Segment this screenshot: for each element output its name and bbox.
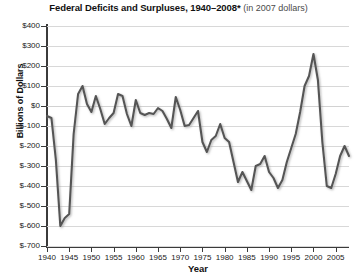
- y-axis-tick: [41, 106, 46, 107]
- y-axis-tick-label: $-200: [0, 141, 40, 150]
- x-axis-tick: [313, 248, 314, 252]
- x-axis-tick: [91, 248, 92, 252]
- y-axis-tick-label: $-700: [0, 241, 40, 250]
- y-axis-tick: [41, 206, 46, 207]
- x-axis-tick: [225, 248, 226, 252]
- x-axis-tick: [69, 248, 70, 252]
- x-axis-tick: [136, 248, 137, 252]
- y-axis-tick-label: $-100: [0, 121, 40, 130]
- y-axis-tick: [41, 126, 46, 127]
- chart-title: Federal Deficits and Surpluses, 1940–200…: [0, 2, 357, 14]
- y-axis-tick-label: $200: [0, 61, 40, 70]
- y-axis-tick: [41, 26, 46, 27]
- y-axis-tick-label: $300: [0, 41, 40, 50]
- y-axis-tick: [41, 226, 46, 227]
- y-axis-tick: [41, 66, 46, 67]
- x-axis-tick: [180, 248, 181, 252]
- x-axis-tick: [202, 248, 203, 252]
- x-axis-tick-label: 2005: [321, 253, 351, 262]
- y-axis-tick-label: $-300: [0, 161, 40, 170]
- plot-area: [47, 26, 349, 246]
- y-axis-tick: [41, 146, 46, 147]
- deficit-surplus-line-series: [47, 26, 349, 246]
- x-axis-tick: [336, 248, 337, 252]
- y-axis-tick-label: $100: [0, 81, 40, 90]
- x-axis-title: Year: [47, 263, 349, 274]
- x-axis-tick: [247, 248, 248, 252]
- y-axis-tick: [41, 46, 46, 47]
- y-axis-tick: [41, 86, 46, 87]
- y-axis-tick: [41, 186, 46, 187]
- y-axis-tick: [41, 166, 46, 167]
- x-axis-tick: [158, 248, 159, 252]
- chart-container: Federal Deficits and Surpluses, 1940–200…: [0, 0, 357, 280]
- y-axis-tick-label: $-600: [0, 221, 40, 230]
- y-axis-tick-label: $400: [0, 21, 40, 30]
- x-axis-tick: [269, 248, 270, 252]
- gridline: [47, 246, 349, 247]
- x-axis-tick: [291, 248, 292, 252]
- y-axis-tick: [41, 246, 46, 247]
- y-axis-tick-label: $-400: [0, 181, 40, 190]
- x-axis-tick: [114, 248, 115, 252]
- chart-title-subtitle: (in 2007 dollars): [243, 3, 308, 13]
- x-axis-tick: [47, 248, 48, 252]
- y-axis-tick-label: $0: [0, 101, 40, 110]
- y-axis-tick-label: $-500: [0, 201, 40, 210]
- chart-title-main: Federal Deficits and Surpluses, 1940–200…: [49, 2, 240, 13]
